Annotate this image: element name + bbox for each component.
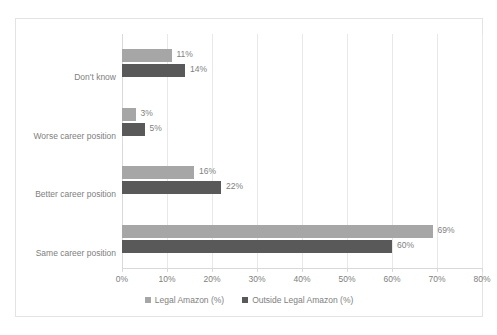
tick-mark: [302, 268, 303, 272]
tick-mark: [437, 268, 438, 272]
bar-row: 16%: [122, 166, 482, 179]
x-tick-label: 10%: [158, 274, 175, 284]
legend-swatch-icon: [145, 297, 151, 303]
tick-mark: [392, 268, 393, 272]
bar-row: 69%: [122, 225, 482, 238]
bar[interactable]: [122, 123, 145, 136]
bar-group: 69%60%: [122, 225, 482, 255]
legend-label: Outside Legal Amazon (%): [252, 295, 353, 305]
bar-value-label: 11%: [177, 48, 193, 61]
bar[interactable]: [122, 108, 136, 121]
bar-value-label: 22%: [226, 180, 243, 193]
gridline: [482, 34, 483, 268]
plot-area: Same career position69%60%Better career …: [122, 34, 482, 268]
x-tick-label: 40%: [293, 274, 310, 284]
chart-frame: Same career position69%60%Better career …: [15, 18, 483, 317]
bar[interactable]: [122, 64, 185, 77]
bar-value-label: 14%: [190, 63, 207, 76]
category-label: Same career position: [12, 248, 116, 258]
bar-row: 11%: [122, 49, 482, 62]
x-tick-label: 0%: [116, 274, 128, 284]
x-tick-label: 50%: [338, 274, 355, 284]
bar-value-label: 69%: [438, 224, 455, 237]
legend-item[interactable]: Legal Amazon (%): [145, 295, 224, 305]
legend-label: Legal Amazon (%): [155, 295, 224, 305]
legend-swatch-icon: [242, 297, 248, 303]
bar-row: 60%: [122, 240, 482, 253]
bar[interactable]: [122, 49, 172, 62]
bar[interactable]: [122, 181, 221, 194]
bar-value-label: 16%: [199, 165, 216, 178]
chart-legend: Legal Amazon (%)Outside Legal Amazon (%): [16, 295, 482, 305]
tick-mark: [122, 268, 123, 272]
tick-mark: [212, 268, 213, 272]
bar-row: 3%: [122, 108, 482, 121]
tick-mark: [167, 268, 168, 272]
bar-group: 16%22%: [122, 166, 482, 196]
bar[interactable]: [122, 225, 433, 238]
bar-row: 22%: [122, 181, 482, 194]
tick-mark: [257, 268, 258, 272]
category-label: Worse career position: [12, 131, 116, 141]
legend-item[interactable]: Outside Legal Amazon (%): [242, 295, 353, 305]
bar[interactable]: [122, 240, 392, 253]
bar-group: 11%14%: [122, 49, 482, 79]
x-tick-label: 70%: [428, 274, 445, 284]
x-tick-label: 30%: [248, 274, 265, 284]
tick-mark: [482, 268, 483, 272]
bar-value-label: 60%: [397, 239, 414, 252]
x-tick-label: 20%: [203, 274, 220, 284]
category-label: Better career position: [12, 189, 116, 199]
bar-row: 14%: [122, 64, 482, 77]
bar[interactable]: [122, 166, 194, 179]
bar-value-label: 5%: [150, 122, 162, 135]
bar-row: 5%: [122, 123, 482, 136]
tick-mark: [347, 268, 348, 272]
category-label: Don't know: [12, 72, 116, 82]
bar-value-label: 3%: [141, 107, 153, 120]
bar-group: 3%5%: [122, 108, 482, 138]
x-tick-label: 60%: [383, 274, 400, 284]
x-tick-label: 80%: [473, 274, 490, 284]
